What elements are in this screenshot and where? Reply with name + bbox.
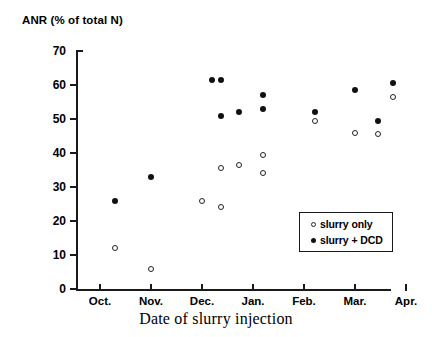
- data-point: [312, 109, 318, 115]
- data-point: [148, 174, 154, 180]
- x-axis-tick-label: Mar.: [331, 296, 379, 308]
- y-axis-tick-label: 20: [14, 215, 66, 227]
- chart-legend: slurry only slurry + DCD: [299, 212, 393, 252]
- data-point: [236, 109, 242, 115]
- x-axis-tick-label: Oct.: [76, 296, 124, 308]
- data-point: [260, 106, 266, 112]
- filled-circle-icon: [307, 238, 320, 243]
- data-point: [148, 266, 154, 272]
- open-circle-icon: [307, 222, 320, 227]
- legend-item-slurry-only: slurry only: [307, 217, 373, 231]
- plot-area: [76, 51, 391, 291]
- data-point: [352, 130, 358, 136]
- x-axis-tick-label: Nov.: [127, 296, 175, 308]
- legend-item-slurry-dcd: slurry + DCD: [307, 233, 383, 247]
- x-axis-title: Date of slurry injection: [0, 310, 432, 328]
- data-point: [260, 170, 266, 176]
- x-axis-tick-label: Jan.: [229, 296, 277, 308]
- data-point: [218, 113, 224, 119]
- x-axis-tick-label: Apr.: [382, 296, 430, 308]
- data-point: [260, 152, 266, 158]
- scatter-chart-figure: ANR (% of total N) 706050403020100 Oct.N…: [0, 0, 432, 337]
- data-point: [218, 77, 224, 83]
- legend-label-slurry-dcd: slurry + DCD: [320, 234, 383, 246]
- legend-label-slurry-only: slurry only: [320, 218, 373, 230]
- data-point: [209, 77, 215, 83]
- data-point: [218, 165, 224, 171]
- data-point: [112, 245, 118, 251]
- y-axis-tick-label: 10: [14, 249, 66, 261]
- x-axis-tick: [405, 284, 407, 291]
- data-point: [199, 198, 205, 204]
- data-point: [218, 204, 224, 210]
- y-axis-tick-label: 30: [14, 181, 66, 193]
- y-axis-tick-label: 60: [14, 79, 66, 91]
- x-axis-tick-label: Feb.: [280, 296, 328, 308]
- data-point: [375, 118, 381, 124]
- data-point: [236, 162, 242, 168]
- data-point: [375, 131, 381, 137]
- y-axis-title: ANR (% of total N): [22, 14, 123, 26]
- data-point: [390, 94, 396, 100]
- data-point: [112, 198, 118, 204]
- x-axis-tick-label: Dec.: [178, 296, 226, 308]
- data-point: [390, 80, 396, 86]
- y-axis-tick-label: 0: [14, 283, 66, 295]
- y-axis-tick-label: 40: [14, 147, 66, 159]
- data-point: [260, 92, 266, 98]
- y-axis-tick-label: 70: [14, 45, 66, 57]
- y-axis-tick-label: 50: [14, 113, 66, 125]
- data-point: [312, 118, 318, 124]
- data-point: [352, 87, 358, 93]
